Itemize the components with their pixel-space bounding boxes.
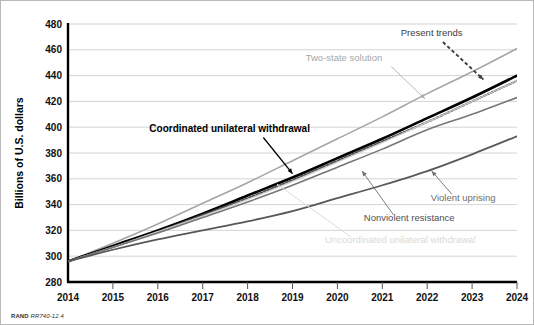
y-tick-label: 280 bbox=[45, 277, 62, 288]
series-label: Two-state solution bbox=[306, 52, 383, 63]
x-tick-label: 2018 bbox=[236, 292, 259, 303]
x-tick-label: 2015 bbox=[102, 292, 125, 303]
annotation-leader bbox=[277, 184, 351, 237]
annotation-leader bbox=[443, 42, 483, 79]
chart-figure: 2803003203403603804004204404604802014201… bbox=[0, 0, 534, 325]
y-tick-label: 320 bbox=[45, 225, 62, 236]
x-tick-label: 2020 bbox=[326, 292, 349, 303]
x-tick-label: 2017 bbox=[192, 292, 215, 303]
x-tick-label: 2022 bbox=[416, 292, 439, 303]
y-axis-title: Billions of U.S. dollars bbox=[13, 97, 25, 209]
annotation-leader bbox=[391, 67, 425, 99]
x-tick-label: 2014 bbox=[57, 292, 80, 303]
x-tick-label: 2021 bbox=[371, 292, 394, 303]
x-tick-label: 2019 bbox=[281, 292, 304, 303]
x-tick-label: 2024 bbox=[506, 292, 529, 303]
y-tick-label: 420 bbox=[45, 96, 62, 107]
annotation-leader bbox=[362, 171, 393, 215]
x-tick-label: 2016 bbox=[147, 292, 170, 303]
series-label: Violent uprising bbox=[431, 192, 496, 203]
y-tick-label: 300 bbox=[45, 251, 62, 262]
y-tick-label: 400 bbox=[45, 122, 62, 133]
y-tick-label: 460 bbox=[45, 44, 62, 55]
credit-id: RR740-12.4 bbox=[31, 313, 64, 319]
series-label: Uncoordinated unilateral withdrawal bbox=[325, 234, 476, 245]
figure-credit: RAND RR740-12.4 bbox=[11, 313, 64, 319]
series-label: Present trends bbox=[401, 27, 463, 38]
y-tick-label: 380 bbox=[45, 148, 62, 159]
y-tick-label: 360 bbox=[45, 173, 62, 184]
y-tick-label: 440 bbox=[45, 70, 62, 81]
series-line bbox=[68, 49, 517, 262]
y-tick-label: 480 bbox=[45, 19, 62, 30]
x-tick-label: 2023 bbox=[461, 292, 484, 303]
credit-org: RAND bbox=[11, 313, 29, 319]
series-label: Nonviolent resistance bbox=[364, 212, 455, 223]
line-chart: 2803003203403603804004204404604802014201… bbox=[1, 1, 534, 325]
series-label: Coordinated unilateral withdrawal bbox=[149, 123, 310, 134]
series-group bbox=[68, 49, 517, 262]
y-tick-label: 340 bbox=[45, 199, 62, 210]
